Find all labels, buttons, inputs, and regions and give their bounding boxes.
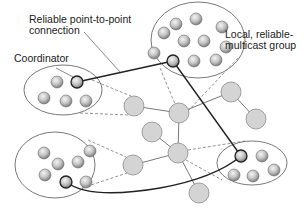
network-node-e: [123, 155, 143, 175]
network-node-f: [189, 183, 209, 203]
coordinator-top-left: [71, 76, 83, 88]
network-node-d: [168, 143, 188, 163]
group-label: Local, reliable- multicast group: [225, 29, 296, 51]
coordinator-bottom-left: [60, 176, 72, 188]
network-node-g: [221, 82, 241, 102]
coordinator-top-center: [167, 55, 179, 67]
network-node-c: [142, 122, 162, 142]
coordinators: [60, 55, 247, 188]
network-node-h: [246, 109, 266, 129]
connection-label: Reliable point-to-point connection: [29, 14, 131, 36]
coordinator-label: Coordinator: [14, 53, 69, 64]
dashed-group-links: [80, 58, 245, 188]
group-label-line2: multicast group: [225, 40, 296, 51]
network-node-a: [124, 96, 144, 116]
group-top-left-ellipse: [24, 65, 102, 115]
connection-label-line2: connection: [29, 25, 131, 36]
coordinator-bottom-right: [235, 150, 247, 162]
network-node-b: [169, 103, 189, 123]
